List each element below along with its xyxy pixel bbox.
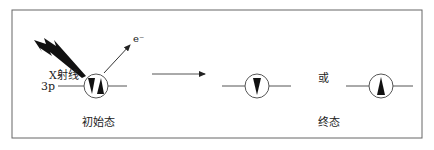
initial-orbital-circle xyxy=(84,74,108,98)
electron-label: e⁻ xyxy=(133,33,144,44)
initial-state-label: 初始态 xyxy=(82,113,115,129)
final-state-label: 终态 xyxy=(318,113,340,129)
orbital-3p-label: 3p xyxy=(41,80,55,93)
or-label: 或 xyxy=(318,69,329,85)
electron-arrow xyxy=(104,45,130,73)
